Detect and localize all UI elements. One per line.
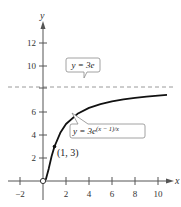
x-tick-label: −2 — [15, 189, 25, 199]
curve-callout-base: y = 3e — [72, 126, 96, 136]
y-tick-label: 4 — [32, 130, 37, 140]
y-tick-label: 2 — [32, 153, 37, 163]
x-tick-labels: −2 2 4 6 8 10 — [15, 189, 163, 199]
asymptote-callout-text: y = 3e — [70, 60, 94, 70]
x-tick-label: 4 — [87, 189, 92, 199]
open-circle-origin — [40, 178, 45, 183]
y-tick-label: 6 — [32, 107, 37, 117]
x-tick-label: 2 — [64, 189, 69, 199]
function-graph: x y −2 2 4 6 8 10 2 4 6 10 12 — [0, 0, 181, 207]
y-axis-arrow-icon — [41, 21, 46, 29]
x-axis-label: x — [174, 175, 180, 186]
point-1-3 — [53, 145, 57, 149]
x-tick-label: 10 — [154, 189, 164, 199]
y-tick-labels: 2 4 6 10 12 — [27, 38, 37, 163]
point-label: (1, 3) — [57, 147, 79, 159]
y-tick-label: 12 — [27, 38, 36, 48]
x-tick-label: 8 — [133, 189, 138, 199]
curve-callout-exponent: (x − 1)/x — [96, 125, 119, 133]
curve-callout: y = 3e(x − 1)/x — [70, 113, 145, 138]
x-tick-label: 6 — [110, 189, 115, 199]
y-tick-label: 10 — [27, 61, 37, 71]
x-axis-arrow-icon — [166, 179, 174, 184]
asymptote-callout: y = 3e — [66, 58, 100, 78]
y-axis-label: y — [39, 10, 45, 21]
